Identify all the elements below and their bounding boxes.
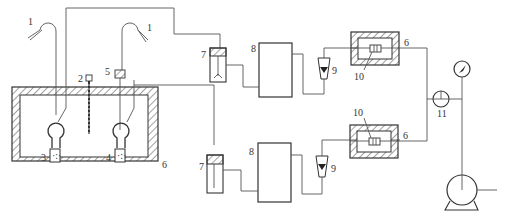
label-7-top: 7 (201, 49, 206, 60)
rotameter-bottom (316, 156, 328, 177)
label-6-bath: 6 (162, 159, 167, 170)
label-10-bottom: 10 (353, 107, 363, 118)
svg-text:·:·: ·:· (117, 150, 126, 161)
rotameter-top (318, 58, 330, 79)
pipe-7-8-top (226, 65, 259, 87)
vacuum-pump (445, 175, 497, 210)
heated-box-top (351, 32, 399, 70)
apparatus-diagram: ·:· ·:· (0, 0, 507, 220)
heated-box-bottom (350, 118, 398, 158)
pipe-7-8-bottom (223, 170, 258, 191)
pressure-gauge (454, 61, 470, 190)
label-7-bottom: 7 (199, 161, 204, 172)
label-8-bottom: 8 (249, 146, 254, 157)
pipe-to-valve (398, 48, 427, 141)
svg-text:·:·: ·:· (52, 150, 61, 161)
label-10-top: 10 (354, 71, 364, 82)
label-6-bottom: 6 (403, 130, 408, 141)
label-3: 3 (41, 152, 46, 163)
label-1-right: 1 (147, 22, 152, 33)
buffer-vessel-top (259, 43, 292, 97)
thermostatic-bath (12, 87, 158, 161)
absorber-top (210, 48, 226, 82)
pipe-top-route (66, 8, 220, 48)
label-8-top: 8 (251, 43, 256, 54)
label-9-bottom: 9 (331, 163, 336, 174)
label-6-top: 6 (404, 37, 409, 48)
three-way-valve (427, 91, 462, 107)
label-5: 5 (105, 66, 110, 77)
label-4: 4 (106, 152, 111, 163)
buffer-vessel-bottom (258, 143, 291, 202)
label-11: 11 (437, 108, 447, 119)
label-1-left: 1 (28, 16, 33, 27)
inlet-hood-right (122, 23, 148, 70)
absorber-bottom (207, 155, 223, 193)
label-2: 2 (78, 73, 83, 84)
label-9-top: 9 (332, 65, 337, 76)
